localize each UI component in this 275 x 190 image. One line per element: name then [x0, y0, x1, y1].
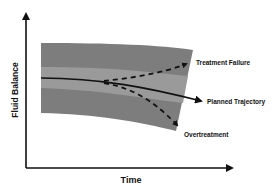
x-axis-label: Time	[121, 175, 142, 185]
planned-trajectory-label: Planned Trajectory	[207, 98, 266, 106]
treatment-failure-label: Treatment Failure	[196, 59, 251, 66]
overtreatment-label: Overtreatment	[184, 131, 229, 138]
y-axis-label: Fluid Balance	[10, 62, 20, 118]
fluid-balance-diagram: Fluid Balance Time Treatment Failure Pla…	[0, 0, 275, 190]
